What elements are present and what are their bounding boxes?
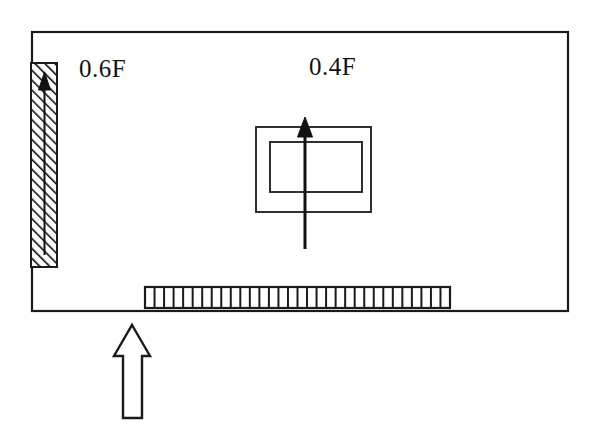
center-outer-rect [256, 127, 371, 212]
inflow-block-arrow [114, 325, 150, 418]
center-riser-arrow [298, 117, 313, 249]
label-left-flow-fraction: 0.6F [79, 56, 126, 81]
center-inner-rect [270, 142, 362, 192]
diagram-canvas: 0.6F 0.4F [0, 0, 595, 439]
label-center-flow-fraction: 0.4F [309, 54, 356, 79]
grating-teeth [155, 287, 441, 308]
hatched-wall-group [31, 63, 57, 267]
bottom-grating [145, 287, 450, 308]
